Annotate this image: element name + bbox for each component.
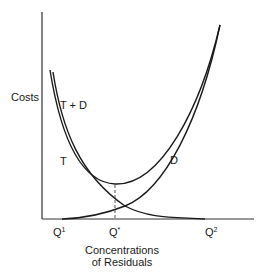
treatment-label: T: [60, 155, 67, 167]
total-cost-label: T + D: [60, 99, 87, 111]
tick-qstar: Q*: [109, 226, 120, 238]
tick-q2: Q2: [205, 226, 217, 238]
damage-curve: [62, 25, 220, 219]
cost-curves-diagram: [0, 0, 265, 274]
y-axis-label: Costs: [11, 91, 39, 103]
x-axis-label: Concentrations of Residuals: [72, 244, 172, 268]
tick-q1: Q1: [53, 226, 65, 238]
treatment-curve: [53, 72, 205, 219]
damage-label: D: [170, 154, 178, 166]
